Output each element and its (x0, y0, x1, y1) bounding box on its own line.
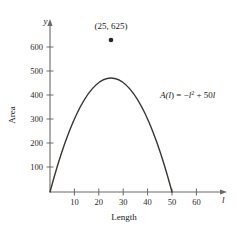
y-axis-variable-label: y (43, 16, 48, 26)
y-tick-label-300: 300 (30, 114, 43, 124)
y-tick-label-200: 200 (30, 138, 43, 148)
x-tick-label-20: 20 (95, 197, 104, 207)
equation-tail: + 50 (194, 90, 213, 100)
vertex-point-marker (109, 38, 114, 43)
x-tick-label-60: 60 (192, 197, 201, 207)
figure-container: 100 200 300 400 500 600 10 20 30 40 50 6… (0, 0, 237, 234)
parabola-curve (50, 78, 172, 192)
y-tick-label-500: 500 (30, 66, 43, 76)
parabola-chart: 100 200 300 400 500 600 10 20 30 40 50 6… (0, 0, 237, 234)
function-equation-label: A(l) = −l2 + 50l (159, 89, 216, 100)
x-tick-label-40: 40 (143, 197, 152, 207)
equation-variable-3: l (213, 90, 216, 100)
x-tick-label-50: 50 (168, 197, 177, 207)
vertex-coordinate-label: (25, 625) (95, 21, 128, 31)
y-tick-label-600: 600 (30, 42, 43, 52)
x-tick-label-10: 10 (70, 197, 79, 207)
y-tick-label-100: 100 (30, 162, 43, 172)
x-axis-title: Length (111, 212, 137, 222)
x-tick-label-30: 30 (119, 197, 128, 207)
x-axis-variable-label: l (222, 195, 225, 205)
x-axis (50, 189, 227, 194)
equation-operator: ) = − (171, 90, 189, 100)
y-axis-title: Area (7, 106, 17, 124)
y-axis (47, 19, 52, 192)
y-tick-label-400: 400 (30, 90, 43, 100)
